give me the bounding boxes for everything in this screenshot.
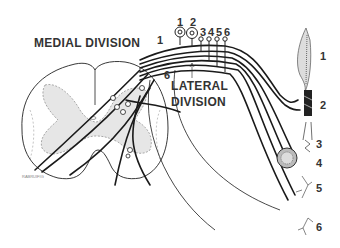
receptor-number-3: 3 <box>316 139 322 150</box>
pacinian-corpuscle-icon <box>277 148 297 168</box>
hair-follicle-icon <box>303 122 312 152</box>
free-nerve-ending-icon <box>296 176 313 235</box>
lateral-division-label-1: LATERAL <box>171 80 228 92</box>
receptor-number-6: 6 <box>316 222 322 233</box>
receptor-number-5: 5 <box>316 183 322 194</box>
medial-division-label: MEDIAL DIVISION <box>34 37 140 49</box>
root-number-6: 6 <box>224 27 230 38</box>
receptor-number-2: 2 <box>320 100 326 111</box>
muscle-spindle-icon <box>298 28 311 92</box>
receptor-number-1: 1 <box>320 51 326 62</box>
root-number-4: 4 <box>208 27 214 38</box>
root-number-2: 2 <box>190 17 196 28</box>
root-number-5: 5 <box>216 27 222 38</box>
tendon-organ-icon <box>304 90 312 116</box>
lateral-division-label-2: DIVISION <box>171 96 226 108</box>
receptor-number-4: 4 <box>316 158 322 169</box>
fiber-number-1: 1 <box>157 35 163 46</box>
root-number-3: 3 <box>200 27 206 38</box>
fiber-number-6: 6 <box>164 70 170 81</box>
figure-code: RABRUIFIG <box>22 175 44 179</box>
root-number-1: 1 <box>177 17 183 28</box>
